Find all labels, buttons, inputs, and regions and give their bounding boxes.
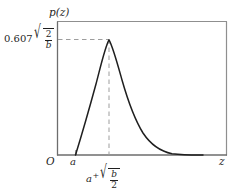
peak-value-annotation: 0.607 √ 2 b xyxy=(4,28,54,50)
probability-density-figure: p(z) z O a 0.607 √ 2 b a + √ b 2 xyxy=(0,0,243,189)
mode-radicand-denominator: 2 xyxy=(110,180,118,189)
peak-radicand-denominator: b xyxy=(45,40,53,50)
radical-sign-icon: √ xyxy=(100,163,107,189)
plot-frame xyxy=(57,22,227,156)
x-tick-label-a: a xyxy=(70,157,76,167)
mode-radical: √ b 2 xyxy=(100,168,120,189)
x-axis-label: z xyxy=(219,156,225,167)
mode-radicand: b 2 xyxy=(108,168,120,189)
guide-lines xyxy=(58,40,109,156)
mode-base: a xyxy=(86,174,92,184)
mode-radicand-numerator: b xyxy=(110,170,118,179)
peak-coefficient: 0.607 xyxy=(4,34,33,44)
origin-label: O xyxy=(46,156,55,167)
density-curve xyxy=(76,40,204,155)
y-axis-label: p(z) xyxy=(49,7,69,18)
peak-radicand-numerator: 2 xyxy=(45,30,53,39)
mode-position-annotation: a + √ b 2 xyxy=(86,168,120,189)
peak-radicand: 2 b xyxy=(43,28,55,50)
mode-operator: + xyxy=(92,172,99,180)
radical-sign-icon: √ xyxy=(34,23,41,50)
peak-radical: √ 2 b xyxy=(34,28,54,50)
